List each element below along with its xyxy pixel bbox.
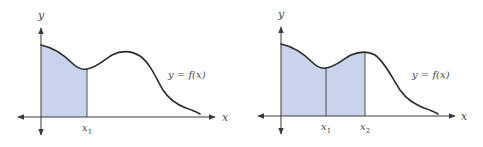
- x1-label: x1: [82, 122, 92, 136]
- x-axis-label: x: [222, 111, 229, 124]
- function-label: y = f(x): [167, 69, 206, 80]
- x2-label: x2: [360, 121, 370, 135]
- area-under-curve-diagram: y x y = f(x) x1 y x y = f(x) x1 x2: [0, 0, 483, 147]
- left-panel: y x y = f(x) x1: [18, 9, 229, 136]
- shaded-area-x1-to-x2: [326, 52, 365, 116]
- x1-label: x1: [321, 121, 331, 135]
- right-panel: y x y = f(x) x1 x2: [258, 8, 468, 135]
- y-axis-label: y: [277, 8, 285, 21]
- x-axis-label: x: [461, 110, 468, 123]
- y-axis-label: y: [37, 9, 45, 22]
- function-label: y = f(x): [411, 69, 450, 80]
